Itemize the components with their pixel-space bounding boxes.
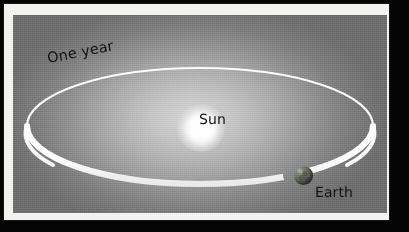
photo-frame: One year Sun Earth [4,4,389,220]
earth-body [294,166,313,185]
earth-surface-texture [294,166,313,185]
space-backdrop: One year Sun Earth [13,15,387,213]
label-earth: Earth [315,185,353,201]
figure-root: One year Sun Earth [0,0,409,232]
orbit-arc-near [27,126,373,184]
label-sun: Sun [199,112,226,128]
